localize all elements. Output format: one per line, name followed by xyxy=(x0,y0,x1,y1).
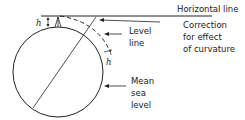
mean-sea-label-3: level xyxy=(131,100,151,110)
correction-label-2: for effect xyxy=(183,32,222,42)
horizontal-line-label: Horizontal line xyxy=(177,4,238,14)
correction-label-1: Correction xyxy=(183,20,227,30)
h-label-right: h xyxy=(106,57,111,67)
correction-label-3: of curvature xyxy=(183,44,235,54)
correction-arrow xyxy=(99,18,160,22)
mean-sea-label-1: Mean xyxy=(131,76,154,86)
h-label-top: h xyxy=(36,18,41,28)
h-dimension-arrow xyxy=(47,17,50,27)
level-line-arrow xyxy=(104,32,122,36)
h-dimension-tick-right xyxy=(104,49,112,55)
mean-sea-level-arrow xyxy=(104,84,126,88)
mean-sea-label-2: sea xyxy=(131,88,146,98)
level-line-label-1: Level xyxy=(129,26,151,36)
diameter-line xyxy=(33,17,96,108)
level-line-label-2: line xyxy=(129,38,144,48)
level-instrument-icon xyxy=(55,17,61,27)
